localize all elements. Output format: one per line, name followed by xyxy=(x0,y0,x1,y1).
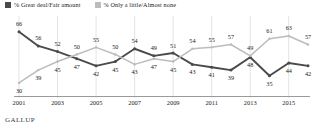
plot-svg xyxy=(0,16,324,98)
x-axis-label: 2007 xyxy=(128,100,141,106)
data-point xyxy=(18,30,21,33)
data-point xyxy=(268,74,271,77)
chart-legend: % Great deal/Fair amount% Only a little/… xyxy=(5,2,176,8)
gallup-trend-chart: % Great deal/Fair amount% Only a little/… xyxy=(0,0,324,131)
data-label: 30 xyxy=(16,88,22,94)
data-label: 42 xyxy=(305,71,311,77)
legend-swatch-icon xyxy=(95,2,101,8)
data-point xyxy=(172,60,174,62)
data-point xyxy=(210,66,213,69)
plot-area: 6656524742455449514341394835444230394550… xyxy=(0,16,324,98)
data-point xyxy=(288,35,290,37)
data-label: 42 xyxy=(93,71,99,77)
data-point xyxy=(210,46,212,48)
gallup-brand: GALLUP xyxy=(5,116,35,124)
data-label: 55 xyxy=(209,37,215,43)
x-axis-label: 2009 xyxy=(167,100,180,106)
data-label: 47 xyxy=(74,64,80,70)
data-label: 51 xyxy=(170,42,176,48)
legend-label: % Only a little/Almost none xyxy=(104,2,176,8)
data-label: 63 xyxy=(286,25,292,31)
data-label: 49 xyxy=(151,45,157,51)
data-point xyxy=(152,54,155,57)
data-label: 56 xyxy=(35,35,41,41)
data-point xyxy=(307,43,309,45)
legend-item-only_a_little: % Only a little/Almost none xyxy=(95,2,176,8)
data-label: 44 xyxy=(286,68,292,74)
data-label: 47 xyxy=(151,64,157,70)
data-point xyxy=(18,82,20,84)
data-label: 52 xyxy=(54,41,60,47)
x-axis-label: 2003 xyxy=(51,100,64,106)
data-point xyxy=(287,61,290,64)
data-point xyxy=(133,47,136,50)
data-label: 50 xyxy=(112,44,118,50)
series-line xyxy=(19,32,308,76)
data-point xyxy=(75,57,78,60)
data-point xyxy=(133,63,135,65)
data-point xyxy=(114,60,117,63)
data-label: 57 xyxy=(228,34,234,40)
data-point xyxy=(191,63,194,66)
data-point xyxy=(114,53,116,55)
series-2 xyxy=(18,35,309,84)
data-label: 39 xyxy=(35,75,41,81)
data-label: 54 xyxy=(189,38,195,44)
series-line xyxy=(19,36,308,83)
data-label: 45 xyxy=(54,66,60,72)
data-label: 49 xyxy=(247,45,253,51)
data-point xyxy=(230,43,232,45)
data-label: 48 xyxy=(247,62,253,68)
data-point xyxy=(37,44,40,47)
data-label: 43 xyxy=(189,69,195,75)
data-label: 61 xyxy=(266,28,272,34)
data-label: 45 xyxy=(112,66,118,72)
data-point xyxy=(37,69,39,71)
data-point xyxy=(56,60,58,62)
data-point xyxy=(56,50,59,53)
x-axis-label: 2015 xyxy=(282,100,295,106)
data-point xyxy=(95,46,97,48)
data-point xyxy=(229,69,232,72)
legend-item-great_deal: % Great deal/Fair amount xyxy=(5,2,81,8)
data-label: 45 xyxy=(170,66,176,72)
data-point xyxy=(76,53,78,55)
data-point xyxy=(307,64,310,67)
data-point xyxy=(249,55,251,57)
x-axis-label: 2013 xyxy=(244,100,257,106)
legend-swatch-icon xyxy=(5,2,11,8)
data-label: 43 xyxy=(132,69,138,75)
data-point xyxy=(153,58,155,60)
data-label: 57 xyxy=(305,34,311,40)
x-axis-label: 2001 xyxy=(13,100,26,106)
legend-label: % Great deal/Fair amount xyxy=(14,2,81,8)
data-label: 35 xyxy=(266,81,272,87)
data-label: 39 xyxy=(228,75,234,81)
data-point xyxy=(172,52,175,55)
data-label: 41 xyxy=(209,72,215,78)
data-label: 50 xyxy=(74,44,80,50)
x-axis-line xyxy=(14,96,310,97)
x-axis-label: 2011 xyxy=(205,100,218,106)
x-axis: 20012003200520072009201120132015 xyxy=(0,96,324,112)
data-label: 66 xyxy=(16,21,22,27)
series-1 xyxy=(18,30,310,77)
data-label: 54 xyxy=(132,38,138,44)
data-point xyxy=(268,38,270,40)
x-axis-label: 2005 xyxy=(90,100,103,106)
data-label: 55 xyxy=(93,37,99,43)
data-point xyxy=(191,48,193,50)
data-point xyxy=(95,64,98,67)
